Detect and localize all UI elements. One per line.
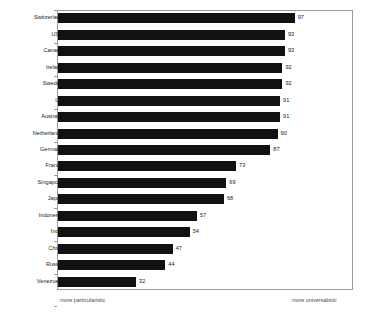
bar: [58, 244, 173, 254]
bar-rows: Switzerland97USA93Canada93Ireland92Swede…: [0, 10, 383, 290]
bar-value-label: 87: [273, 147, 279, 153]
category-label: India: [0, 229, 63, 235]
bar-row: Germany87: [0, 142, 383, 158]
bar: [58, 277, 136, 287]
bar-value-label: 91: [283, 114, 289, 120]
bar-value-label: 91: [283, 98, 289, 104]
bar-row: Singapore69: [0, 175, 383, 191]
category-label: Japan: [0, 196, 63, 202]
category-label: France: [0, 163, 63, 169]
bar-row: China47: [0, 241, 383, 257]
category-label: USA: [0, 32, 63, 38]
bar: [58, 227, 190, 237]
bar: [58, 129, 278, 139]
bar-value-label: 32: [139, 279, 145, 285]
bar-value-label: 92: [285, 81, 291, 87]
axis-note-left: more particularistic: [60, 298, 105, 303]
bar: [58, 13, 295, 23]
bar: [58, 194, 224, 204]
bar-row: Indonesia57: [0, 208, 383, 224]
bar-chart: Switzerland97USA93Canada93Ireland92Swede…: [0, 0, 383, 319]
bar-row: Netherlands90: [0, 125, 383, 141]
bar-row: Ireland92: [0, 59, 383, 75]
category-label: Russia: [0, 262, 63, 268]
bar-row: France73: [0, 158, 383, 174]
category-label: Netherlands: [0, 131, 63, 137]
bar: [58, 96, 280, 106]
bar-value-label: 93: [288, 32, 294, 38]
bar-value-label: 54: [193, 229, 199, 235]
bar-value-label: 90: [281, 131, 287, 137]
bar-value-label: 69: [229, 180, 235, 186]
bar: [58, 145, 270, 155]
bar-row: Japan68: [0, 191, 383, 207]
bar-value-label: 57: [200, 213, 206, 219]
category-label: UK: [0, 98, 63, 104]
bar: [58, 79, 282, 89]
axis-note-right: more universalistic: [292, 298, 337, 303]
bar-row: Switzerland97: [0, 10, 383, 26]
category-label: Switzerland: [0, 15, 63, 21]
axis-tick: [54, 306, 57, 307]
bar: [58, 260, 165, 270]
bar-value-label: 97: [298, 15, 304, 21]
bar-value-label: 47: [176, 246, 182, 252]
bar-row: Sweden92: [0, 76, 383, 92]
axis-tick: [54, 10, 57, 11]
bar-row: Russia44: [0, 257, 383, 273]
bar-row: Venezuela32: [0, 274, 383, 290]
category-label: China: [0, 246, 63, 252]
bar-value-label: 73: [239, 163, 245, 169]
bar-row: Canada93: [0, 43, 383, 59]
category-label: Sweden: [0, 81, 63, 87]
bar: [58, 211, 197, 221]
bar: [58, 178, 226, 188]
bar: [58, 112, 280, 122]
bar: [58, 46, 285, 56]
bar-row: UK91: [0, 92, 383, 108]
bar: [58, 161, 236, 171]
bar: [58, 30, 285, 40]
bar-row: USA93: [0, 26, 383, 42]
category-label: Germany: [0, 147, 63, 153]
category-label: Indonesia: [0, 213, 63, 219]
bar: [58, 63, 282, 73]
category-label: Ireland: [0, 65, 63, 71]
category-label: Canada: [0, 48, 63, 54]
bar-value-label: 44: [168, 262, 174, 268]
bar-value-label: 68: [227, 196, 233, 202]
bar-row: Australia91: [0, 109, 383, 125]
category-label: Singapore: [0, 180, 63, 186]
category-label: Venezuela: [0, 279, 63, 285]
bar-row: India54: [0, 224, 383, 240]
bar-value-label: 92: [285, 65, 291, 71]
category-label: Australia: [0, 114, 63, 120]
bar-value-label: 93: [288, 48, 294, 54]
